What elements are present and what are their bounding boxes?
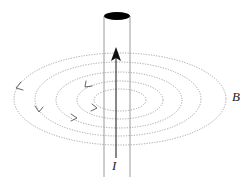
wire-top-cap (104, 12, 130, 20)
magnetic-field-lines (14, 53, 226, 145)
field-direction-arrows (16, 81, 97, 121)
field-line-5 (14, 53, 226, 145)
diagram-canvas: I B (0, 0, 251, 186)
field-label: B (232, 89, 240, 104)
field-arrow-icon (71, 114, 77, 121)
field-line-1 (94, 89, 146, 111)
field-arrow-icon (16, 82, 23, 90)
field-arrow-icon (91, 104, 97, 111)
field-line-4 (35, 62, 201, 136)
current-arrow (111, 47, 121, 158)
field-arrow-icon (85, 81, 92, 87)
wire (104, 12, 130, 177)
current-label: I (111, 158, 117, 173)
